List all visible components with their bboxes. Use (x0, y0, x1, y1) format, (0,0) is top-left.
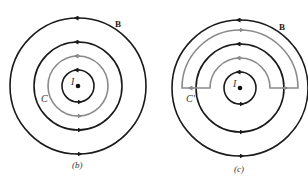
current-label: I (232, 78, 237, 89)
panel-b: I B C (b) (10, 18, 146, 170)
contour-c-prime (182, 30, 298, 88)
contour-label: C' (186, 93, 196, 104)
panel-caption: (c) (234, 164, 244, 174)
contour-label: C (41, 93, 48, 104)
ampere-law-diagram: I B C (b) I B C' (c) (0, 0, 308, 183)
current-wire-dot (76, 84, 81, 89)
current-label: I (70, 76, 75, 87)
field-label: B (115, 19, 121, 29)
current-wire-dot (238, 86, 243, 91)
panel-c: I B C' (c) (172, 20, 308, 174)
field-label: B (279, 22, 285, 32)
panel-caption: (b) (72, 160, 83, 170)
